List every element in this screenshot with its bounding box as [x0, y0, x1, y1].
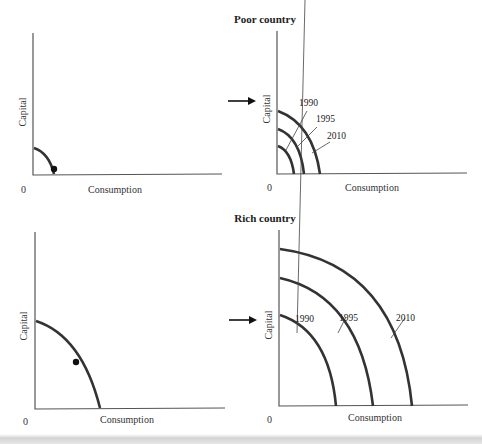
rich-left-origin: 0: [23, 416, 28, 427]
poor-left-ylabel: Capital: [17, 97, 28, 126]
poor-country-title: Poor country: [234, 13, 296, 25]
rich-ppf-curve: [36, 321, 100, 408]
arrow-icon: [229, 316, 257, 324]
rich-label-2010: 2010: [396, 313, 415, 323]
rich-left-xlabel: Consumption: [100, 414, 154, 425]
rich-right-origin: 0: [267, 414, 272, 425]
page-bottom-edge: [0, 434, 482, 444]
rich-left-ylabel: Capital: [18, 311, 29, 340]
poor-label-2010: 2010: [327, 131, 346, 141]
poor-right-ylabel: Capital: [261, 94, 272, 123]
poor-ppf-curves: [278, 111, 320, 174]
poor-left-origin: 0: [21, 184, 26, 195]
rich-right-xlabel: Consumption: [348, 412, 402, 423]
poor-right-origin: 0: [267, 182, 272, 193]
rich-label-1995: 1995: [339, 313, 358, 323]
rich-leader-lines: [297, 0, 405, 338]
rich-ppf-point: [73, 359, 79, 365]
rich-ppf-curves: [280, 249, 412, 406]
poor-label-1995: 1995: [316, 114, 335, 124]
poor-left-xlabel: Consumption: [88, 184, 142, 195]
poor-right-xlabel: Consumption: [345, 182, 399, 193]
rich-right-ylabel: Capital: [263, 310, 274, 339]
ppf-diagram: Poor country Rich country 1990 1995 2010: [0, 0, 482, 444]
rich-country-title: Rich country: [234, 212, 296, 224]
poor-ppf-point: [51, 166, 57, 172]
poor-label-1990: 1990: [299, 98, 318, 108]
rich-label-1990: 1990: [295, 314, 314, 324]
arrow-icon: [228, 97, 256, 105]
